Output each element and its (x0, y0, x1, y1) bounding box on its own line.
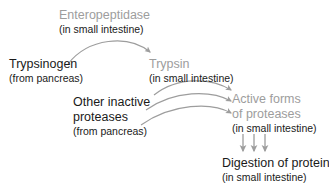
node-other-inactive-proteases: Other inactive proteases (from pancreas) (73, 95, 150, 137)
trypsin-sublabel: (in small intestine) (149, 72, 234, 84)
trypsinogen-label: Trypsinogen (9, 57, 83, 72)
active-forms-label-line1: Active forms (232, 92, 317, 107)
protease-activation-diagram: Enteropeptidase (in small intestine) Try… (0, 0, 329, 193)
node-active-forms: Active forms of proteases (in small inte… (232, 92, 317, 134)
other-proteases-label-line2: proteases (73, 110, 150, 125)
other-proteases-sublabel: (from pancreas) (73, 125, 150, 137)
enteropeptidase-label: Enteropeptidase (59, 8, 150, 23)
active-forms-label-line2: of proteases (232, 107, 317, 122)
active-forms-sublabel: (in small intestine) (232, 122, 317, 134)
other-proteases-label-line1: Other inactive (73, 95, 150, 110)
enteropeptidase-sublabel: (in small intestine) (59, 23, 150, 35)
digestion-label: Digestion of protein (222, 156, 329, 171)
node-trypsin: Trypsin (in small intestine) (149, 57, 234, 84)
trypsin-label: Trypsin (149, 57, 234, 72)
node-trypsinogen: Trypsinogen (from pancreas) (9, 57, 83, 84)
digestion-sublabel: (in small intestine) (222, 171, 329, 183)
trypsinogen-sublabel: (from pancreas) (9, 72, 83, 84)
node-digestion-of-protein: Digestion of protein (in small intestine… (222, 156, 329, 183)
arrow-other-proteases-lower (141, 106, 231, 125)
node-enteropeptidase: Enteropeptidase (in small intestine) (59, 8, 150, 35)
